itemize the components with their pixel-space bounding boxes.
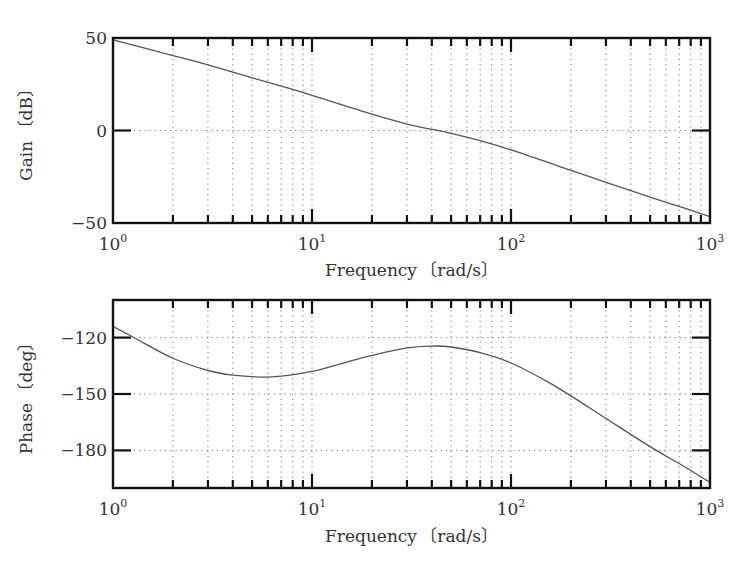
x-tick-label: 103 xyxy=(696,497,725,519)
y-tick-label: −120 xyxy=(60,328,107,348)
y-tick-label: 50 xyxy=(85,28,107,48)
x-tick-label: 103 xyxy=(696,232,725,254)
x-tick-label: 101 xyxy=(298,232,327,254)
phase-curve xyxy=(113,326,710,482)
y-axis-label: Gain 〔dB〕 xyxy=(16,80,36,181)
x-tick-label: 102 xyxy=(497,232,526,254)
x-axis-label: Frequency 〔rad/s〕 xyxy=(325,526,498,546)
x-tick-label: 101 xyxy=(298,497,327,519)
y-tick-label: −150 xyxy=(60,384,107,404)
gain-curve xyxy=(113,40,710,217)
x-axis-label: Frequency 〔rad/s〕 xyxy=(325,260,498,280)
gain-panel: 500−50100101102103Frequency 〔rad/s〕Gain … xyxy=(16,28,724,280)
bode-plot: 500−50100101102103Frequency 〔rad/s〕Gain … xyxy=(0,0,745,572)
x-tick-label: 102 xyxy=(497,497,526,519)
x-tick-label: 100 xyxy=(99,232,128,254)
y-tick-label: 0 xyxy=(96,121,107,141)
phase-panel: −120−150−180100101102103Frequency 〔rad/s… xyxy=(16,300,724,546)
x-tick-label: 100 xyxy=(99,497,128,519)
y-axis-label: Phase 〔deg〕 xyxy=(16,334,36,455)
y-tick-label: −180 xyxy=(60,440,107,460)
y-tick-label: −50 xyxy=(71,213,107,233)
